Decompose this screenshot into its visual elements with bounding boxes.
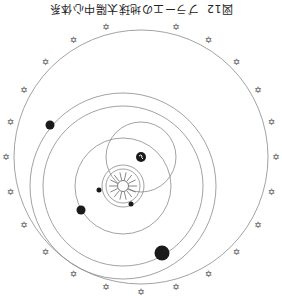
star-icon: ✡ (233, 57, 241, 67)
earth-icon (136, 152, 146, 162)
star-icon: ✡ (233, 247, 241, 257)
star-icon: ✡ (7, 117, 15, 127)
star-icon: ✡ (172, 282, 180, 292)
star-icon: ✡ (137, 287, 145, 296)
star-icon: ✡ (42, 247, 50, 257)
star-icon: ✡ (70, 35, 78, 45)
star-icon: ✡ (268, 117, 276, 127)
star-icon: ✡ (20, 85, 28, 95)
jupiter-planet (155, 246, 170, 261)
saturn-planet (46, 121, 55, 130)
star-icon: ✡ (268, 187, 276, 197)
star-icon: ✡ (172, 22, 180, 32)
mars-planet (77, 206, 86, 215)
star-icon: ✡ (20, 220, 28, 230)
star-icon: ✡ (102, 22, 110, 32)
star-icon: ✡ (272, 152, 280, 162)
star-icon: ✡ (102, 282, 110, 292)
venus-planet (129, 202, 134, 207)
star-icon: ✡ (205, 269, 213, 279)
star-icon: ✡ (42, 57, 50, 67)
star-icon: ✡ (254, 220, 262, 230)
star-icon: ✡ (254, 85, 262, 95)
star-icon: ✡ (70, 269, 78, 279)
star-icon: ✡ (205, 35, 213, 45)
sun-icon (109, 172, 137, 199)
star-icon: ✡ (7, 187, 15, 197)
star-icon: ✡ (2, 152, 10, 162)
mercury-planet (97, 188, 102, 193)
tycho-system-diagram: ✡✡✡✡✡✡✡✡✡✡✡✡✡✡✡✡✡✡✡✡✡✡✡ (0, 0, 282, 296)
